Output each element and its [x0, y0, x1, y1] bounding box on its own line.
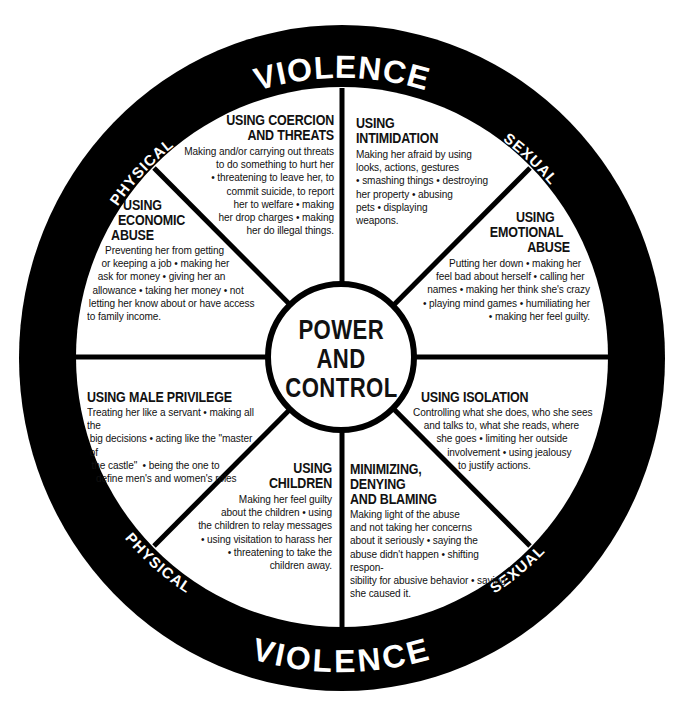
body-line: feel bad about herself • calling her	[401, 270, 585, 283]
segment-minimizing-denying-blaming: MINIMIZING, DENYING AND BLAMING Making l…	[350, 462, 525, 600]
body-line: allowance • taking her money • not	[87, 284, 258, 297]
body-line: Making her afraid by using	[356, 148, 509, 161]
body-line: involvement • using jealousy	[413, 446, 593, 459]
body-line: names • making her think she's crazy	[401, 283, 590, 296]
title-line: DENYING	[350, 477, 501, 492]
title-line: INTIMIDATION	[356, 131, 502, 146]
title-line: ECONOMIC	[87, 213, 250, 228]
body-line: she caused it.	[350, 587, 508, 600]
title-line: ABUSE	[87, 228, 250, 243]
body-line: Making light of the abuse	[350, 508, 508, 521]
body-line: define men's and women's roles	[87, 472, 258, 485]
segment-body: Putting her down • making her feel bad a…	[401, 257, 590, 323]
segment-title: USING MALE PRIVILEGE	[87, 390, 250, 405]
segment-body: Treating her like a servant • making all…	[87, 406, 258, 485]
segment-title: USING INTIMIDATION	[356, 116, 502, 146]
body-line: she goes • limiting her outside	[413, 432, 593, 445]
segment-emotional-abuse: USING EMOTIONAL ABUSE Putting her down •…	[380, 210, 590, 323]
title-line: AND THREATS	[176, 128, 334, 143]
segment-body: Making her feel guilty about the childre…	[186, 493, 332, 572]
body-line: letting her know about or have access	[87, 297, 258, 310]
body-line: to do something to hurt her	[168, 158, 334, 171]
body-line: Making and/or carrying out threats	[168, 145, 334, 158]
title-line: ABUSE	[407, 240, 570, 255]
title-line: USING ISOLATION	[421, 390, 586, 405]
title-line: MINIMIZING,	[350, 462, 501, 477]
body-line: Making her feel guilty	[186, 493, 332, 506]
body-line: ask for money • giving her an	[87, 270, 258, 283]
body-line: abuse didn't happen • shifting respon-	[350, 548, 508, 574]
body-line: • threatening to leave her, to	[168, 171, 334, 184]
body-line: children away.	[186, 559, 332, 572]
body-line: • playing mind games • humiliating her	[401, 297, 590, 310]
body-line: to family income.	[87, 310, 258, 323]
body-line: the children to relay messages	[186, 519, 332, 532]
segment-title: USING COERCION AND THREATS	[176, 113, 334, 143]
body-line: or keeping a job • making her	[87, 257, 258, 270]
body-line: about it seriously • saying the	[350, 534, 508, 547]
body-line: her property • abusing	[356, 188, 509, 201]
title-line: USING MALE PRIVILEGE	[87, 390, 250, 405]
segment-title: USING EMOTIONAL ABUSE	[407, 210, 570, 255]
title-line: AND BLAMING	[350, 492, 501, 507]
title-line: USING	[87, 198, 250, 213]
center-title-line: POWER	[298, 316, 384, 345]
body-line: • threatening to take the	[186, 546, 332, 559]
body-line: and talks to, what she reads, where	[413, 419, 593, 432]
segment-title: MINIMIZING, DENYING AND BLAMING	[350, 462, 501, 507]
segment-male-privilege: USING MALE PRIVILEGE Treating her like a…	[87, 390, 277, 485]
body-line: commit suicide, to report	[168, 185, 334, 198]
body-line: and not taking her concerns	[350, 521, 508, 534]
segment-body: Making light of the abuse and not taking…	[350, 508, 508, 600]
body-line: • making her feel guilty.	[401, 310, 590, 323]
body-line: the castle" • being the one to	[87, 459, 258, 472]
body-line: • smashing things • destroying	[356, 174, 509, 187]
title-line: USING	[407, 210, 555, 225]
center-title-line: CONTROL	[285, 374, 397, 403]
body-line: looks, actions, gestures	[356, 161, 509, 174]
body-line: big decisions • acting like the "master …	[87, 432, 258, 458]
body-line: about the children • using	[186, 506, 332, 519]
body-line: Controlling what she does, who she sees	[413, 406, 593, 419]
body-line: • using visitation to harass her	[186, 533, 332, 546]
body-line: Putting her down • making her	[401, 257, 581, 270]
segment-title: USING ECONOMIC ABUSE	[87, 198, 250, 243]
segment-body: Preventing her from getting or keeping a…	[87, 244, 258, 323]
segment-title: USING ISOLATION	[421, 390, 586, 405]
title-line: USING COERCION	[176, 113, 334, 128]
title-line: EMOTIONAL	[407, 225, 564, 240]
segment-isolation: USING ISOLATION Controlling what she doe…	[413, 390, 613, 472]
center-title-line: AND	[316, 345, 365, 374]
title-line: USING	[356, 116, 502, 131]
body-line: Preventing her from getting	[87, 244, 258, 257]
body-line: sibility for abusive behavior • saying	[350, 574, 508, 587]
body-line: Treating her like a servant • making all…	[87, 406, 258, 432]
segment-economic-abuse: USING ECONOMIC ABUSE Preventing her from…	[87, 198, 277, 323]
